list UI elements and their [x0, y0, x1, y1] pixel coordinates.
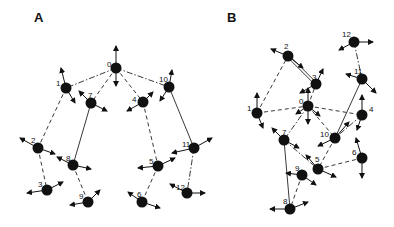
- node-label: 4: [132, 95, 137, 104]
- edge-10-11: [169, 87, 194, 148]
- displacement-arrow-icon: [138, 166, 154, 168]
- node-label: 2: [284, 42, 289, 51]
- displacement-arrow-icon: [311, 109, 320, 116]
- displacement-arrow-icon: [294, 202, 308, 208]
- displacement-arrow-icon: [146, 203, 160, 208]
- node-4: [138, 97, 149, 108]
- edge-1-2: [257, 56, 288, 113]
- displacement-arrow-icon: [42, 149, 55, 154]
- node-9: [83, 197, 94, 208]
- displacement-arrow-icon: [160, 90, 167, 101]
- edge-7-5: [284, 140, 318, 169]
- edge-5-6: [142, 166, 158, 202]
- edge-11-12: [187, 148, 194, 193]
- displacement-arrow-icon: [339, 44, 350, 50]
- displacement-arrow-icon: [170, 70, 172, 83]
- node-label: 4: [369, 105, 374, 114]
- edge-5-6: [318, 158, 362, 169]
- node-label: 3: [312, 73, 317, 82]
- node-label: 10: [159, 75, 168, 84]
- displacement-arrow-icon: [68, 91, 75, 103]
- displacement-arrow-icon: [322, 171, 336, 177]
- displacement-arrow-icon: [91, 190, 100, 199]
- node-label: 5: [149, 157, 154, 166]
- panel-a-label: A: [34, 10, 44, 25]
- node-2: [283, 51, 294, 62]
- node-3: [42, 185, 53, 196]
- node-0: [111, 63, 122, 74]
- displacement-arrow-icon: [162, 158, 175, 164]
- displacement-arrow-icon: [365, 82, 376, 93]
- displacement-arrow-icon: [288, 142, 299, 148]
- displacement-arrow-icon: [61, 68, 65, 84]
- node-label: 0: [299, 97, 304, 106]
- node-1: [252, 108, 263, 119]
- displacement-arrow-icon: [286, 173, 298, 175]
- node-1: [61, 83, 72, 94]
- edge-0-4: [308, 106, 362, 115]
- displacement-arrow-icon: [77, 166, 91, 169]
- displacement-arrow-icon: [318, 69, 323, 80]
- node-4: [357, 110, 368, 121]
- displacement-arrow-icon: [197, 138, 212, 146]
- node-label: 0: [107, 60, 112, 69]
- displacement-arrow-icon: [172, 149, 190, 153]
- node-label: 7: [88, 91, 93, 100]
- displacement-arrow-icon: [95, 105, 107, 111]
- node-5: [313, 164, 324, 175]
- node-6: [357, 153, 368, 164]
- displacement-arrow-icon: [271, 49, 284, 54]
- node-label: 6: [137, 190, 142, 199]
- node-label: 9: [79, 192, 84, 201]
- displacement-arrow-icon: [79, 91, 88, 100]
- node-label: 8: [66, 154, 71, 163]
- displacement-arrow-icon: [357, 119, 361, 130]
- displacement-arrow-icon: [258, 117, 263, 128]
- edge-1-2: [38, 88, 66, 148]
- node-label: 9: [295, 164, 300, 173]
- node-0: [303, 101, 314, 112]
- displacement-arrow-icon: [51, 182, 63, 188]
- displacement-arrow-icon: [305, 177, 316, 185]
- node-label: 7: [282, 128, 287, 137]
- edge-11-10: [335, 79, 362, 138]
- node-10: [330, 133, 341, 144]
- panel-b: 2312111047106598 B: [227, 10, 376, 215]
- node-label: 11: [354, 67, 363, 76]
- edge-0-7: [284, 106, 308, 140]
- node-label: 12: [176, 183, 185, 192]
- network-diagram: 0174102839511612 A 2312111047106598 B: [0, 0, 394, 227]
- displacement-arrow-icon: [318, 140, 331, 146]
- node-5: [153, 161, 164, 172]
- edge-2-3: [287, 57, 315, 85]
- panel-b-nodes: 2312111047106598: [247, 30, 374, 215]
- displacement-arrow-icon: [146, 92, 153, 99]
- node-label: 6: [352, 148, 357, 157]
- panel-b-label: B: [227, 10, 236, 25]
- panel-a: 0174102839511612 A: [20, 10, 212, 208]
- node-label: 12: [342, 30, 351, 39]
- displacement-arrow-icon: [272, 128, 281, 137]
- displacement-arrow-icon: [70, 203, 84, 205]
- displacement-arrow-icon: [27, 191, 43, 193]
- node-label: 1: [56, 79, 61, 88]
- node-label: 5: [315, 155, 320, 164]
- node-label: 2: [31, 136, 36, 145]
- node-label: 1: [247, 104, 252, 113]
- displacement-arrow-icon: [356, 138, 361, 154]
- node-label: 8: [283, 197, 288, 206]
- edge-1-0: [257, 106, 308, 113]
- node-label: 10: [320, 130, 329, 139]
- displacement-arrow-icon: [127, 104, 140, 111]
- displacement-arrow-icon: [300, 86, 313, 93]
- node-label: 11: [182, 140, 191, 149]
- node-label: 3: [38, 180, 43, 189]
- edge-0-1: [66, 68, 116, 88]
- edge-7-8: [73, 103, 91, 165]
